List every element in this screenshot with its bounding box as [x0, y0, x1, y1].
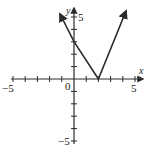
y-min-label: −5 — [58, 135, 70, 147]
x-min-label: −5 — [2, 82, 14, 94]
y-axis-label: y — [65, 5, 71, 16]
y-max-label: 5 — [78, 11, 84, 23]
function-curve — [60, 11, 126, 79]
x-max-label: 5 — [131, 82, 137, 94]
x-axis-label: x — [138, 65, 144, 76]
graph: −5 5 0 5 −5 x y — [0, 0, 145, 150]
origin-label: 0 — [65, 80, 71, 92]
